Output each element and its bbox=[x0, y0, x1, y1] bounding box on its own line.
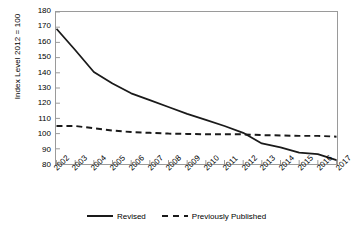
x-axis-tick-labels: 2002200320042005200620072008200920102011… bbox=[55, 166, 338, 206]
plot-svg bbox=[56, 12, 337, 164]
y-tick-label: 130 bbox=[29, 84, 51, 92]
legend-label: Previously Published bbox=[192, 212, 266, 221]
y-tick-label: 80 bbox=[29, 161, 51, 169]
y-tick-label: 160 bbox=[29, 38, 51, 46]
legend-item[interactable]: Previously Published bbox=[162, 212, 266, 221]
solid-line-icon bbox=[87, 212, 113, 220]
y-tick-label: 150 bbox=[29, 53, 51, 61]
legend-item[interactable]: Revised bbox=[87, 212, 146, 221]
y-axis-title: Index Level 2012 = 100 bbox=[13, 0, 22, 132]
y-tick-label: 140 bbox=[29, 69, 51, 77]
series-layer bbox=[56, 29, 336, 160]
line-chart: Index Level 2012 = 100 18017016015014013… bbox=[0, 0, 353, 229]
y-tick-label: 110 bbox=[29, 115, 51, 123]
chart-legend: RevisedPreviously Published bbox=[0, 208, 353, 224]
y-axis-tick-labels: 1801701601501401301201101009080 bbox=[28, 0, 51, 229]
y-tick-label: 120 bbox=[29, 99, 51, 107]
y-tick-label: 100 bbox=[29, 130, 51, 138]
y-tick-label: 90 bbox=[29, 146, 51, 154]
axis-tick-marks bbox=[56, 12, 337, 164]
dashed-line-icon bbox=[162, 212, 188, 220]
series-line bbox=[56, 126, 336, 137]
y-tick-label: 180 bbox=[29, 7, 51, 15]
y-tick-label: 170 bbox=[29, 22, 51, 30]
plot-area bbox=[55, 11, 338, 165]
series-line bbox=[56, 29, 336, 160]
legend-label: Revised bbox=[117, 212, 146, 221]
